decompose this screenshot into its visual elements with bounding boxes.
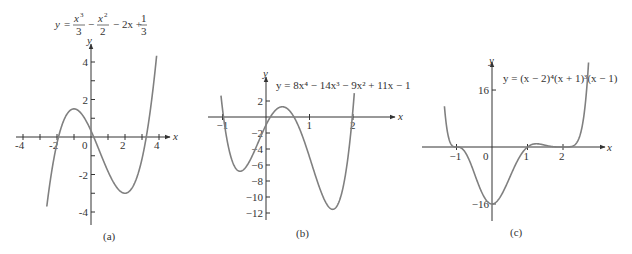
chart-b-x-label: x xyxy=(397,110,403,122)
y-tick-label: -2 xyxy=(79,169,88,181)
eq-a-t1-exp: 3 xyxy=(80,11,84,19)
x-tick-label: 2 xyxy=(559,150,565,162)
chart-c-y-label: y xyxy=(488,54,494,66)
chart-c-equation: y = (x − 2)⁴(x + 1)³(x − 1) xyxy=(503,72,618,85)
chart-c-caption: (c) xyxy=(510,226,523,239)
eq-a-t1-num: x xyxy=(73,12,79,24)
chart-c-x-label: x xyxy=(606,141,612,153)
x-tick-label: 1 xyxy=(307,119,313,131)
y-tick-label: −12 xyxy=(246,207,263,219)
x-tick-label: 0 xyxy=(82,139,88,151)
x-tick-label: −1 xyxy=(450,150,462,162)
x-tick-label: −1 xyxy=(217,119,229,131)
eq-a-equals: = xyxy=(64,18,70,30)
x-tick-label: 2 xyxy=(120,139,126,151)
chart-a-x-label: x xyxy=(172,130,178,142)
eq-a-op1: − xyxy=(88,18,94,30)
chart-b-ticks: −1122−2−4−6−8−10−12 xyxy=(217,95,356,219)
chart-a-equation: y = x 3 3 − x 2 2 − 2x + 1 3 xyxy=(54,11,147,37)
eq-a-t2-num: x xyxy=(97,12,103,24)
chart-a-caption: (a) xyxy=(103,230,116,243)
y-tick-label: 4 xyxy=(83,56,89,68)
eq-a-t3-den: 3 xyxy=(141,25,147,37)
eq-a-t1-den: 3 xyxy=(76,25,82,37)
x-tick-label: 4 xyxy=(154,139,160,151)
eq-a-rest: − 2x + xyxy=(113,18,142,30)
chart-c: x y y = (x − 2)⁴(x + 1)³(x − 1) −101216−… xyxy=(422,54,618,239)
y-tick-label: −10 xyxy=(246,191,264,203)
chart-b-y-label: y xyxy=(262,67,268,79)
eq-a-t2-exp: 2 xyxy=(104,11,108,19)
chart-a-curve xyxy=(47,56,157,207)
chart-a: y = x 3 3 − x 2 2 − 2x + 1 3 x y -4-2024… xyxy=(15,11,178,243)
eq-a-t2-den: 2 xyxy=(100,25,106,37)
x-tick-label: 0 xyxy=(483,150,489,162)
chart-a-y-label: y xyxy=(86,34,92,46)
y-tick-label: −8 xyxy=(251,175,263,187)
x-tick-label: 1 xyxy=(524,150,530,162)
figure: y = x 3 3 − x 2 2 − 2x + 1 3 x y -4-2024… xyxy=(0,0,632,254)
y-tick-label: 2 xyxy=(83,94,89,106)
y-tick-label: 2 xyxy=(258,95,264,107)
eq-a-y: y xyxy=(54,18,60,30)
chart-b-equation: y = 8x⁴ − 14x³ − 9x² + 11x − 1 xyxy=(276,79,411,91)
chart-b-curve xyxy=(221,93,354,209)
eq-a-t3-num: 1 xyxy=(141,12,147,24)
x-tick-label: -4 xyxy=(15,139,25,151)
chart-b: x y y = 8x⁴ − 14x³ − 9x² + 11x − 1 −1122… xyxy=(208,67,411,240)
chart-b-caption: (b) xyxy=(296,227,309,240)
y-tick-label: −6 xyxy=(251,159,263,171)
y-tick-label: 16 xyxy=(478,84,490,96)
y-tick-label: -4 xyxy=(79,206,89,218)
